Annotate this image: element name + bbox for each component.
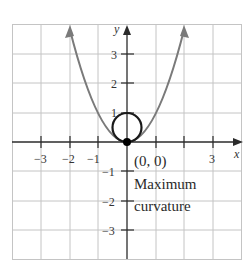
annotation-maximum: Maximum — [134, 176, 197, 192]
x-tick-label: −1 — [87, 152, 100, 166]
origin-point — [123, 138, 131, 146]
axes — [12, 32, 236, 259]
x-tick-label: −3 — [34, 152, 47, 166]
y-tick-label: 1 — [111, 106, 117, 120]
y-tick-label: −3 — [102, 224, 115, 238]
y-axis-arrow-icon — [123, 25, 131, 35]
x-tick-label: 3 — [209, 152, 215, 166]
y-tick-label: 3 — [111, 48, 117, 62]
x-axis-label: x — [233, 147, 240, 161]
parabola-curvature-chart: −3 −2 −1 3 x 3 2 1 −1 −2 −3 y (0, 0) Max… — [0, 0, 252, 271]
y-tick-label: −1 — [102, 165, 115, 179]
curve-right-arrow-icon — [180, 25, 189, 38]
x-tick-label: −2 — [62, 152, 75, 166]
y-tick-label: −2 — [102, 195, 115, 209]
curve-left-arrow-icon — [65, 25, 74, 38]
y-axis-label: y — [113, 22, 120, 36]
point-label: (0, 0) — [134, 153, 167, 170]
annotation-curvature: curvature — [134, 198, 191, 214]
y-tick-label: 2 — [111, 77, 117, 91]
